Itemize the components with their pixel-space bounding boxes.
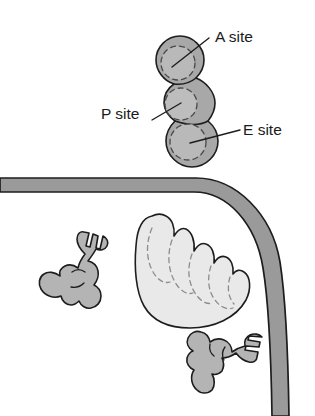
trna-bottom <box>187 331 262 393</box>
ribosome-diagram: A site P site E site <box>0 0 315 416</box>
p-site-label: P site <box>101 105 140 122</box>
trna-left <box>39 232 107 308</box>
a-site-label: A site <box>215 28 253 45</box>
e-site-label: E site <box>243 121 282 138</box>
diagram-canvas: A site P site E site <box>0 0 315 416</box>
organelle-body <box>135 214 249 328</box>
